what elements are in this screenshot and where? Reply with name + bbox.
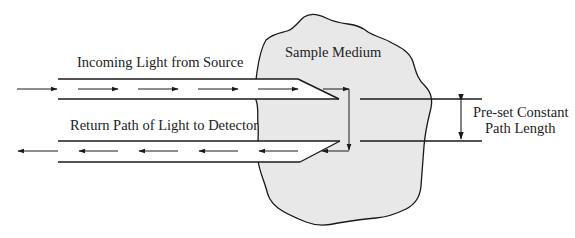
- path-length-label-line2: Path Length: [485, 120, 556, 136]
- path-length-label-line1: Pre-set Constant: [473, 104, 568, 120]
- incoming-light-label: Incoming Light from Source: [77, 54, 243, 70]
- return-path-label: Return Path of Light to Detector: [70, 117, 258, 133]
- fiber-probe-diagram: Incoming Light from Source Return Path o…: [0, 0, 575, 238]
- sample-medium-label: Sample Medium: [285, 44, 382, 60]
